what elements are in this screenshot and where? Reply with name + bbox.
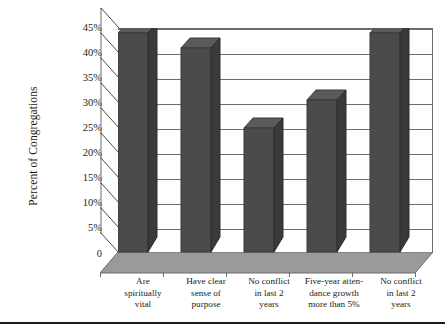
y-tick-label: 10% <box>58 198 102 208</box>
x-label-line: purpose <box>173 299 239 311</box>
x-label-group: Five-year atten- dance growth more than … <box>296 276 372 311</box>
y-tick-label: 30% <box>58 98 102 108</box>
y-tick-label: 15% <box>58 173 102 183</box>
y-tick-label: 5% <box>58 223 102 233</box>
axis-left-wall <box>100 8 120 261</box>
x-label-group: No conflict in last 2 years <box>236 276 302 311</box>
bar-no-conflict-in-last-2-years-b[interactable] <box>370 28 409 252</box>
y-tick-label: 20% <box>58 148 102 158</box>
bar-are-spiritually-vital[interactable] <box>118 28 157 252</box>
bar-five-year-attendance-growth[interactable] <box>307 90 346 252</box>
page-divider-rule <box>0 322 445 324</box>
x-tick <box>100 272 101 277</box>
y-axis-tick-labels: 45% 40% 35% 30% 25% 20% 15% 10% 5% 0 <box>58 0 102 331</box>
bar-have-clear-sense-of-purpose[interactable] <box>181 38 220 252</box>
x-label-line: in last 2 <box>368 288 434 300</box>
x-label-group: No conflict in last 2 years <box>368 276 434 311</box>
y-tick-label: 35% <box>58 73 102 83</box>
x-label-line: No conflict <box>236 276 302 288</box>
x-label-line: years <box>368 299 434 311</box>
x-axis-labels: Are spiritually vital Have clear sense o… <box>110 276 440 324</box>
bar-no-conflict-in-last-2-years-a[interactable] <box>244 118 283 252</box>
bar-chart: Percent of Congregations 45% 40% 35% 30%… <box>0 0 445 331</box>
y-axis-title: Percent of Congregations <box>27 46 39 246</box>
y-tick-label: 25% <box>58 123 102 133</box>
x-label-line: Have clear <box>173 276 239 288</box>
x-label-line: Five-year atten- <box>296 276 372 288</box>
x-label-line: No conflict <box>368 276 434 288</box>
y-tick-label: 40% <box>58 48 102 58</box>
x-label-line: sense of <box>173 288 239 300</box>
x-label-line: years <box>236 299 302 311</box>
x-label-line: Are <box>110 276 176 288</box>
x-label-line: in last 2 <box>236 288 302 300</box>
x-label-line: more than 5% <box>296 299 372 311</box>
x-label-group: Have clear sense of purpose <box>173 276 239 311</box>
x-label-line: dance growth <box>296 288 372 300</box>
x-label-group: Are spiritually vital <box>110 276 176 311</box>
x-label-line: vital <box>110 299 176 311</box>
y-tick-label: 0 <box>58 249 102 259</box>
bar-series <box>118 28 433 253</box>
x-label-line: spiritually <box>110 288 176 300</box>
y-tick-label: 45% <box>58 23 102 33</box>
chart-floor <box>100 252 433 274</box>
